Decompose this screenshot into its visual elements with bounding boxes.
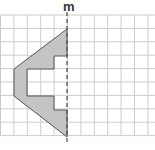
symmetry-diagram bbox=[0, 0, 155, 150]
symmetry-line-label: m bbox=[63, 0, 75, 14]
